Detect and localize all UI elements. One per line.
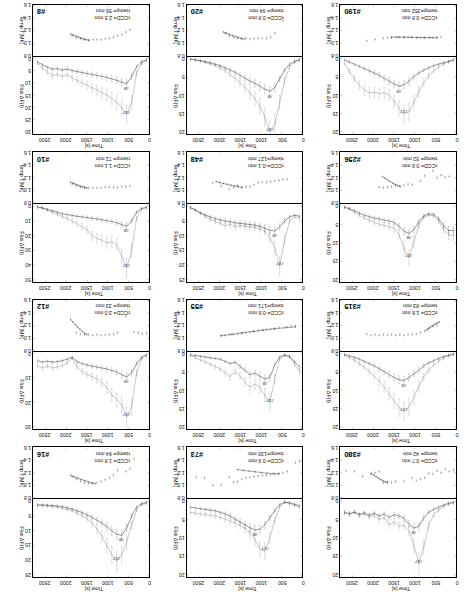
plot-stack: 051015202530Flux ΔF(t)#9#170.81.01.21.41… bbox=[32, 4, 150, 136]
time-tick-labels: 05001000150020002500 bbox=[32, 284, 150, 291]
temp-tick-label: 1.0 bbox=[331, 40, 338, 46]
time-axis-title: Time [s] bbox=[32, 586, 156, 592]
curve-tag-17: #17 bbox=[262, 546, 269, 551]
tau-ccd-label: τCCD= 0.8 min bbox=[402, 14, 438, 21]
panel-id-label: #20 bbox=[191, 7, 203, 16]
temp-tick-label: 0.8 bbox=[24, 348, 31, 354]
tau-temp-label: τtemp= 56 min bbox=[95, 7, 131, 14]
curve-tag-17: #17 bbox=[400, 109, 407, 114]
temp-subplot: 0.81.01.21.41.6Temp T[MK]#48τCCD=-0.1 mi… bbox=[187, 153, 303, 204]
panel-id-label: #12 bbox=[37, 302, 49, 311]
flux-tick-label: 20 bbox=[179, 572, 185, 578]
flux-tick-label: 20 bbox=[333, 424, 339, 430]
time-tick-label: 0 bbox=[302, 433, 305, 439]
flux-tick-label: 5 bbox=[182, 74, 185, 80]
panel-id-label: #48 bbox=[191, 155, 203, 164]
tau-annotations: τCCD= 0.7 minτtemp= 42 min bbox=[402, 450, 438, 464]
curve-tag-17: #17 bbox=[123, 262, 130, 267]
time-tick-labels: 05001000150020002500 bbox=[32, 432, 150, 439]
flux-subplot: 0102030Flux ΔF(t)#9#17 bbox=[33, 351, 149, 430]
tau-temp-label: τtemp= 83 min bbox=[402, 302, 438, 309]
flux-axis-title: Flux ΔF(t) bbox=[326, 84, 332, 108]
time-tick-label: 1500 bbox=[81, 285, 93, 291]
temp-tick-label: 0.8 bbox=[331, 495, 338, 501]
time-tick-label: 500 bbox=[124, 138, 133, 144]
tau-annotations: τCCD= 0.8 minτtemp=352 min bbox=[402, 7, 438, 21]
panel-190: Time [s]0500100015002000250005101520Flux… bbox=[309, 2, 463, 150]
temp-tick-label: 1.2 bbox=[331, 175, 338, 181]
panel-id-label: #380 bbox=[344, 450, 360, 459]
flux-tick-label: 10 bbox=[25, 528, 31, 534]
time-axis-title: Time [s] bbox=[186, 439, 310, 445]
flux-tick-label: 5 bbox=[335, 517, 338, 523]
time-tick-label: 0 bbox=[456, 433, 459, 439]
time-tick-labels: 05001000150020002500 bbox=[186, 579, 304, 586]
tau-temp-label: τtemp= 33 min bbox=[95, 302, 131, 309]
temp-tick-label: 1.0 bbox=[331, 482, 338, 488]
time-tick-labels: 05001000150020002500 bbox=[339, 432, 457, 439]
tau-ccd-label: τCCD= 0.6 min bbox=[248, 309, 284, 316]
tau-temp-label: τtemp= 64 min bbox=[95, 450, 131, 457]
time-tick-label: 500 bbox=[124, 433, 133, 439]
tau-annotations: τCCD= 2.5 minτtemp= 56 min bbox=[95, 7, 131, 21]
time-tick-label: 500 bbox=[124, 580, 133, 586]
time-tick-labels: 05001000150020002500 bbox=[32, 579, 150, 586]
time-tick-label: 500 bbox=[278, 580, 287, 586]
temp-axis-title: Temp T[MK] bbox=[19, 458, 25, 487]
time-tick-label: 0 bbox=[302, 580, 305, 586]
flux-subplot: 05101520Flux ΔF(t)#9#17 bbox=[340, 498, 456, 577]
panel-id-label: #10 bbox=[37, 155, 49, 164]
temp-subplot: 0.81.01.21.41.6Temp T[MK]#55τCCD= 0.6 mi… bbox=[187, 300, 303, 351]
time-tick-label: 1500 bbox=[235, 285, 247, 291]
temp-subplot: 0.81.01.21.41.6Temp T[MK]#8τCCD= 2.5 min… bbox=[33, 5, 149, 56]
temp-tick-label: 1.6 bbox=[331, 297, 338, 303]
time-axis-title: Time [s] bbox=[339, 291, 463, 297]
temp-tick-label: 1.2 bbox=[331, 27, 338, 33]
flux-tick-label: 25 bbox=[25, 572, 31, 578]
temp-subplot: 0.81.01.21.41.6Temp T[MK]#12τCCD= 3.0 mi… bbox=[33, 300, 149, 351]
time-tick-label: 2000 bbox=[60, 138, 72, 144]
curve-tag-9: #9 bbox=[263, 381, 268, 386]
time-tick-labels: 05001000150020002500 bbox=[339, 579, 457, 586]
tau-annotations: τCCD= 1.8 minτtemp= 64 min bbox=[95, 450, 131, 464]
flux-tick-label: 30 bbox=[25, 424, 31, 430]
temp-tick-label: 1.2 bbox=[331, 322, 338, 328]
temp-tick-labels: 0.81.01.21.41.6 bbox=[3, 300, 33, 351]
tau-ccd-label: τCCD=-0.1 min bbox=[248, 162, 284, 169]
temp-subplot: 0.81.01.21.41.6Temp T[MK]#256τCCD= 0.9 m… bbox=[340, 153, 456, 204]
time-tick-label: 1500 bbox=[235, 138, 247, 144]
plot-stack: 05101520Flux ΔF(t)#9#170.81.01.21.41.6Te… bbox=[339, 299, 457, 431]
tau-ccd-label: τCCD= 0.9 min bbox=[248, 457, 284, 464]
plot-stack: 05101520Flux ΔF(t)#9#170.81.01.21.41.6Te… bbox=[186, 447, 304, 579]
temp-tick-label: 1.6 bbox=[177, 150, 184, 156]
temp-tick-label: 1.6 bbox=[24, 297, 31, 303]
flux-tick-labels: 01020304050 bbox=[3, 204, 33, 282]
time-tick-label: 1000 bbox=[102, 138, 114, 144]
time-axis-title: Time [s] bbox=[186, 291, 310, 297]
flux-tick-label: 5 bbox=[335, 222, 338, 228]
curve-tag-9: #9 bbox=[411, 530, 416, 535]
temp-tick-label: 1.6 bbox=[177, 445, 184, 451]
temp-tick-label: 1.0 bbox=[331, 335, 338, 341]
time-tick-label: 1000 bbox=[256, 138, 268, 144]
flux-tick-labels: 05101520 bbox=[157, 499, 187, 577]
flux-axis-title: Flux ΔF(t) bbox=[173, 526, 179, 550]
time-tick-label: 2000 bbox=[367, 138, 379, 144]
time-tick-label: 2000 bbox=[214, 580, 226, 586]
flux-tick-label: 20 bbox=[25, 233, 31, 239]
time-tick-label: 1000 bbox=[409, 580, 421, 586]
tau-annotations: τCCD= 0.9 minτtemp=130 min bbox=[248, 450, 284, 464]
flux-tick-label: 10 bbox=[25, 218, 31, 224]
temp-tick-label: 0.8 bbox=[24, 200, 31, 206]
time-tick-label: 1500 bbox=[81, 580, 93, 586]
flux-tick-label: 20 bbox=[179, 424, 185, 430]
temp-tick-label: 0.8 bbox=[331, 53, 338, 59]
curve-tag-9: #9 bbox=[124, 228, 129, 233]
temp-tick-label: 0.8 bbox=[177, 348, 184, 354]
flux-tick-label: 10 bbox=[179, 233, 185, 239]
curve-tag-17: #17 bbox=[266, 397, 273, 402]
curve-tag-9: #9 bbox=[124, 86, 129, 91]
time-axis-title: Time [s] bbox=[32, 439, 156, 445]
temp-tick-labels: 0.81.01.21.41.6 bbox=[3, 153, 33, 204]
temp-tick-label: 1.4 bbox=[331, 162, 338, 168]
